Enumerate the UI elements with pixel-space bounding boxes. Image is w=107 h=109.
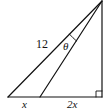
theta-label: θ (63, 41, 68, 52)
inner-cevian-line (40, 1, 102, 97)
triangle-diagram (0, 0, 107, 109)
hypotenuse-label: 12 (36, 38, 48, 50)
two-x-label: 2x (67, 99, 77, 109)
hypotenuse-line (8, 1, 102, 97)
x-label: x (22, 99, 27, 109)
right-angle-marker (96, 91, 102, 97)
angle-arc-theta (70, 34, 77, 41)
